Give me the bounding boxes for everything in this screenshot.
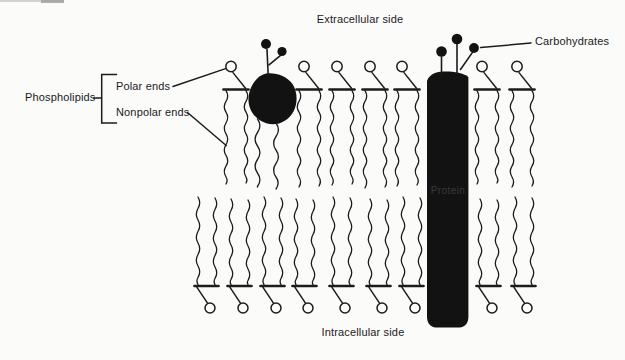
phospholipid-tail [246, 200, 249, 285]
phospholipid-tail [213, 198, 216, 285]
phospholipid-head [477, 61, 487, 71]
phospholipid-neck [230, 287, 241, 303]
phospholipid-head [332, 61, 342, 71]
phospholipid-tail [348, 198, 351, 285]
phospholipid-lower [293, 199, 317, 313]
carbohydrate-dot [469, 43, 479, 53]
phospholipid-tail [224, 91, 227, 184]
phospholipid-neck [306, 73, 319, 89]
phospholipid-head [271, 303, 281, 313]
phospholipid-upper [297, 61, 322, 187]
phospholipid-tail [279, 198, 282, 285]
phospholipid-tail [530, 91, 533, 186]
phospholipid-lower [512, 197, 536, 313]
transmembrane-protein [427, 72, 468, 328]
phospholipid-lower [400, 197, 424, 313]
phospholipid-tail [418, 198, 421, 285]
label-nonpolar-ends: Nonpolar ends [116, 106, 190, 118]
phospholipid-lower [367, 199, 391, 313]
phospholipid-tail [495, 91, 498, 183]
phospholipid-tail [415, 91, 418, 185]
carbohydrate-dot [452, 34, 463, 45]
phospholipid-tail [317, 91, 320, 186]
phospholipid-neck [402, 287, 413, 303]
phospholipid-neck [197, 287, 208, 303]
phospholipid-tail [368, 199, 371, 285]
phospholipid-upper [330, 61, 355, 185]
scan-artifact [41, 0, 64, 3]
phospholipid-tail [495, 200, 498, 285]
phospholipids-bracket [94, 74, 117, 123]
carbohydrate-dot [261, 39, 271, 49]
phospholipid-tail [244, 91, 247, 183]
phospholipid-head [238, 303, 248, 313]
phospholipid-head [303, 303, 313, 313]
phospholipid-tail [478, 199, 481, 285]
membrane-protein-blob [248, 73, 296, 124]
phospholipid-neck [233, 73, 246, 89]
phospholipid-head [226, 61, 236, 71]
phospholipid-neck [484, 73, 497, 89]
phospholipid-tail [311, 200, 314, 285]
phospholipid-neck [372, 73, 385, 89]
phospholipid-head [365, 61, 375, 71]
phospholipid-tail [510, 91, 513, 187]
diagram-art [0, 0, 625, 360]
phospholipid-neck [369, 287, 380, 303]
phospholipid-neck [519, 73, 532, 89]
phospholipid-upper [363, 61, 388, 188]
phospholipid-lower [330, 197, 354, 313]
phospholipid-upper [224, 61, 249, 184]
phospholipid-head [512, 61, 522, 71]
leader-line-polar-ends [173, 69, 226, 87]
phospholipid-neck [263, 287, 274, 303]
phospholipid-head [487, 303, 497, 313]
phospholipid-neck [295, 287, 306, 303]
membrane-diagram: Extracellular side Carbohydrates Phospho… [0, 0, 625, 360]
label-carbohydrates: Carbohydrates [535, 35, 609, 47]
leader-line-nonpolar-ends [188, 113, 227, 146]
phospholipid-tail [401, 197, 404, 285]
phospholipid-tail [330, 91, 333, 185]
phospholipid-head [377, 303, 387, 313]
phospholipid-head [340, 303, 350, 313]
label-polar-ends: Polar ends [116, 80, 170, 92]
phospholipid-tail [294, 199, 297, 285]
phospholipid-tail [530, 198, 533, 285]
phospholipid-tail [255, 119, 260, 187]
carbohydrate-chain [436, 34, 479, 75]
phospholipid-lower [477, 199, 501, 313]
leader-line-carbohydrates [481, 43, 531, 48]
phospholipid-tail [385, 200, 388, 285]
label-phospholipids: Phospholipids [25, 91, 95, 103]
phospholipid-neck [479, 287, 490, 303]
phospholipid-tail [229, 199, 232, 285]
carbohydrate-dot [277, 47, 286, 56]
phospholipid-head [410, 303, 420, 313]
phospholipid-tail [331, 197, 334, 285]
phospholipid-neck [404, 73, 417, 89]
phospholipid-tail [274, 123, 279, 189]
phospholipid-tail [363, 91, 366, 188]
phospholipid-tail [297, 91, 300, 187]
phospholipid-tail [475, 91, 478, 184]
phospholipid-lower [261, 197, 285, 313]
label-protein: Protein [427, 185, 469, 197]
bracket [102, 74, 117, 123]
phospholipid-neck [514, 287, 525, 303]
phospholipid-tail [350, 91, 353, 184]
carbohydrate-dot [436, 46, 447, 57]
phospholipid-tail [395, 91, 398, 186]
label-extracellular-side: Extracellular side [317, 13, 403, 25]
phospholipid-tail [262, 197, 265, 285]
phospholipid-tail [383, 91, 386, 187]
phospholipid-lower [195, 197, 219, 313]
phospholipid-upper [395, 61, 420, 186]
phospholipid-head [299, 61, 309, 71]
phospholipid-upper [475, 61, 500, 184]
phospholipid-upper [510, 61, 535, 187]
carbohydrate-stalk [461, 53, 473, 70]
phospholipid-head [522, 303, 532, 313]
phospholipid-tail [513, 197, 516, 285]
phospholipid-head [397, 61, 407, 71]
